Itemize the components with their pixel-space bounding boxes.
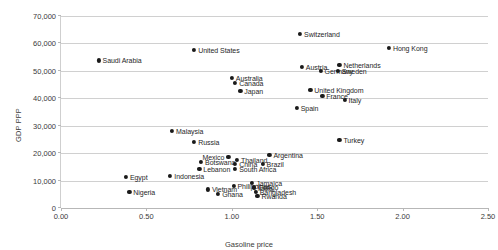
data-point[interactable] — [216, 192, 220, 196]
x-axis-tick-label: 2.00 — [395, 212, 410, 221]
data-point[interactable] — [197, 166, 201, 170]
data-point[interactable] — [298, 32, 302, 36]
gridline — [61, 98, 488, 99]
data-point-label: South Africa — [239, 165, 276, 172]
data-point-label: Rwanda — [261, 192, 286, 199]
x-tick-mark — [403, 208, 404, 211]
data-point-label: Ghana — [222, 191, 243, 198]
y-axis-title: GDP PPP — [14, 108, 23, 142]
data-point[interactable] — [192, 48, 196, 52]
data-point-label: United States — [198, 47, 239, 54]
x-tick-mark — [61, 208, 62, 211]
data-point[interactable] — [199, 160, 203, 164]
gridline — [61, 126, 488, 127]
data-point[interactable] — [319, 69, 323, 73]
data-point[interactable] — [238, 89, 242, 93]
y-axis-tick-label: 20,000 — [33, 149, 61, 158]
plot-area: 010,00020,00030,00040,00050,00060,00070,… — [60, 16, 488, 208]
data-point-label: Spain — [301, 104, 319, 111]
y-axis-tick-label: 50,000 — [33, 66, 61, 75]
x-tick-mark — [146, 208, 147, 211]
data-point-label: Switzerland — [304, 30, 340, 37]
x-axis-tick-label: 0.50 — [139, 212, 154, 221]
data-point-label: Saudi Arabia — [103, 57, 142, 64]
y-axis-tick-label: 40,000 — [33, 94, 61, 103]
data-point-label: Malaysia — [176, 128, 203, 135]
data-point[interactable] — [230, 76, 234, 80]
x-axis-tick-label: 2.50 — [481, 212, 496, 221]
data-point-label: Egypt — [130, 174, 148, 181]
data-point-label: Argentina — [273, 151, 303, 158]
y-axis-tick-label: 10,000 — [33, 176, 61, 185]
data-point[interactable] — [300, 65, 304, 69]
data-point-label: Germany — [325, 67, 353, 74]
x-axis-tick-label: 1.00 — [224, 212, 239, 221]
data-point[interactable] — [320, 93, 324, 97]
x-tick-mark — [232, 208, 233, 211]
data-point[interactable] — [233, 167, 237, 171]
data-point-label: Hong Kong — [393, 44, 428, 51]
data-point[interactable] — [337, 138, 341, 142]
data-point-label: Russia — [198, 139, 219, 146]
data-point[interactable] — [124, 175, 128, 179]
data-point-label: Canada — [239, 80, 263, 87]
x-axis-tick-label: 1.50 — [310, 212, 325, 221]
scatter-chart: GDP PPP Gasoline price 010,00020,00030,0… — [0, 0, 498, 250]
x-axis-tick-label: 0.00 — [54, 212, 69, 221]
gridline — [61, 16, 488, 17]
data-point[interactable] — [337, 63, 341, 67]
y-axis-tick-label: 70,000 — [33, 12, 61, 21]
data-point[interactable] — [342, 98, 346, 102]
data-point[interactable] — [255, 194, 259, 198]
data-point[interactable] — [192, 140, 196, 144]
data-point-label: Japan — [244, 87, 263, 94]
y-axis-tick-label: 60,000 — [33, 39, 61, 48]
data-point[interactable] — [295, 106, 299, 110]
data-point[interactable] — [233, 161, 237, 165]
data-point-label: Indonesia — [174, 173, 204, 180]
data-point[interactable] — [170, 129, 174, 133]
data-point-label: Turkey — [343, 136, 364, 143]
data-point[interactable] — [206, 187, 210, 191]
data-point[interactable] — [168, 174, 172, 178]
data-point[interactable] — [233, 81, 237, 85]
data-point[interactable] — [267, 152, 271, 156]
x-axis-line — [61, 208, 488, 209]
data-point-label: Nigeria — [133, 188, 155, 195]
gridline — [61, 71, 488, 72]
data-point[interactable] — [387, 45, 391, 49]
data-point[interactable] — [127, 189, 131, 193]
x-axis-title: Gasoline price — [0, 240, 498, 249]
x-tick-mark — [317, 208, 318, 211]
y-axis-tick-label: 30,000 — [33, 121, 61, 130]
data-point-label: Italy — [349, 96, 362, 103]
x-tick-mark — [488, 208, 489, 211]
data-point[interactable] — [308, 87, 312, 91]
data-point[interactable] — [96, 58, 100, 62]
data-point-label: Lebanon — [203, 165, 230, 172]
